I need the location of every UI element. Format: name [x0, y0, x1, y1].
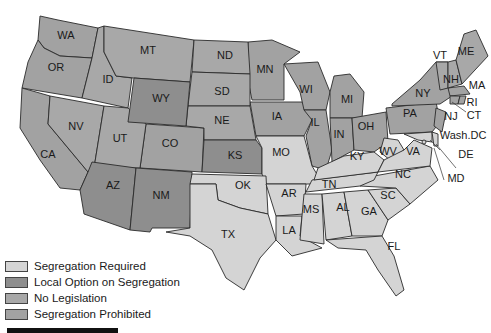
- legend-item-local-option: Local Option on Segregation: [5, 274, 180, 290]
- svg-text:OH: OH: [358, 120, 375, 132]
- svg-text:MA: MA: [469, 79, 486, 91]
- svg-text:AL: AL: [336, 201, 349, 213]
- svg-text:IA: IA: [272, 110, 283, 122]
- svg-text:OR: OR: [48, 61, 65, 73]
- svg-text:CT: CT: [467, 109, 482, 121]
- svg-text:NH: NH: [443, 73, 459, 85]
- svg-text:IL: IL: [310, 116, 319, 128]
- legend-swatch-local-option: [5, 277, 28, 288]
- svg-text:LA: LA: [282, 224, 296, 236]
- svg-text:SC: SC: [380, 189, 395, 201]
- svg-text:Wash.DC: Wash.DC: [440, 129, 487, 141]
- legend-item-required: Segregation Required: [5, 258, 180, 274]
- svg-text:NY: NY: [415, 87, 431, 99]
- state-dc[interactable]: [422, 140, 426, 144]
- svg-text:NE: NE: [214, 114, 229, 126]
- state-ms[interactable]: [300, 194, 324, 244]
- svg-text:CO: CO: [162, 137, 179, 149]
- svg-text:DE: DE: [458, 148, 473, 160]
- svg-text:KS: KS: [228, 149, 243, 161]
- legend-item-prohibited: Segregation Prohibited: [5, 306, 180, 322]
- svg-text:NM: NM: [152, 189, 169, 201]
- svg-text:OK: OK: [235, 179, 252, 191]
- state-me[interactable]: [456, 30, 488, 84]
- svg-text:VA: VA: [406, 145, 421, 157]
- legend-swatch-no-legislation: [5, 293, 28, 304]
- legend: Segregation Required Local Option on Seg…: [5, 258, 180, 322]
- divider-bar: [7, 328, 118, 333]
- svg-text:MT: MT: [140, 44, 156, 56]
- svg-text:ME: ME: [458, 45, 475, 57]
- legend-swatch-required: [5, 261, 28, 272]
- svg-text:UT: UT: [113, 132, 128, 144]
- svg-text:TN: TN: [322, 178, 337, 190]
- svg-text:RI: RI: [467, 96, 478, 108]
- state-md[interactable]: [404, 132, 432, 142]
- svg-text:KY: KY: [350, 150, 365, 162]
- svg-text:MS: MS: [303, 203, 320, 215]
- svg-text:NJ: NJ: [444, 110, 457, 122]
- svg-text:WA: WA: [57, 29, 75, 41]
- svg-text:MN: MN: [256, 63, 273, 75]
- state-az[interactable]: [80, 162, 136, 230]
- svg-text:WI: WI: [299, 83, 312, 95]
- svg-text:TX: TX: [221, 228, 236, 240]
- svg-text:WY: WY: [152, 92, 170, 104]
- svg-text:MD: MD: [447, 172, 464, 184]
- svg-text:PA: PA: [403, 107, 418, 119]
- legend-item-no-legislation: No Legislation: [5, 290, 180, 306]
- legend-swatch-prohibited: [5, 309, 28, 320]
- svg-text:WV: WV: [379, 145, 397, 157]
- svg-text:NC: NC: [395, 168, 411, 180]
- svg-text:ND: ND: [217, 49, 233, 61]
- svg-text:CA: CA: [40, 148, 56, 160]
- svg-text:AZ: AZ: [106, 179, 120, 191]
- svg-text:NV: NV: [68, 120, 84, 132]
- svg-text:ID: ID: [103, 73, 114, 85]
- svg-text:VT: VT: [433, 49, 447, 61]
- svg-text:SD: SD: [214, 85, 229, 97]
- svg-text:MO: MO: [272, 146, 290, 158]
- state-de[interactable]: [432, 132, 438, 146]
- svg-text:MI: MI: [341, 93, 353, 105]
- svg-text:AR: AR: [281, 187, 296, 199]
- svg-text:GA: GA: [361, 205, 378, 217]
- svg-text:FL: FL: [388, 240, 401, 252]
- svg-text:IN: IN: [334, 128, 345, 140]
